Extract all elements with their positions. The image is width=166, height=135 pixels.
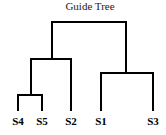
leaf-label-s4: S4 xyxy=(12,115,24,127)
branch-s4s5-s2 xyxy=(31,59,71,110)
clade-s4-s5-s2 xyxy=(31,59,71,110)
root-clade xyxy=(52,22,126,73)
leaf-label-s2: S2 xyxy=(65,115,77,127)
leaf-label-s1: S1 xyxy=(95,115,107,127)
branch-s1-s3 xyxy=(101,73,153,110)
clade-s1-s3 xyxy=(101,73,153,110)
root-branch xyxy=(52,22,126,73)
diagram-title: Guide Tree xyxy=(65,0,114,12)
guide-tree-diagram: Guide Tree S4 S5 S2 S1 S3 xyxy=(0,0,166,135)
clade-s4-s5 xyxy=(18,95,42,110)
leaf-label-s5: S5 xyxy=(36,115,48,127)
branch-s4-s5 xyxy=(18,95,42,110)
leaf-label-s3: S3 xyxy=(147,115,159,127)
